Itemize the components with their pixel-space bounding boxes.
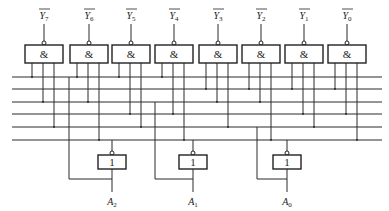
and-gate-y5: Y5&: [112, 9, 150, 63]
input-label: Y7: [39, 10, 49, 23]
or-gate-a0: 1A0: [257, 127, 301, 209]
and-gate-y1: Y1&: [285, 9, 323, 63]
and-gate-y7: Y7&: [25, 9, 63, 63]
gate-symbol: &: [170, 48, 179, 60]
gate-symbol: &: [300, 48, 309, 60]
output-label: A0: [281, 196, 292, 209]
gate-symbol: &: [343, 48, 352, 60]
gate-symbol: &: [127, 48, 136, 60]
bus-lines: [12, 77, 382, 140]
and-gate-y6: Y6&: [70, 9, 108, 63]
and-gate-y0: Y0&: [328, 9, 366, 63]
and-gate-y4: Y4&: [155, 9, 193, 63]
gate-symbol: &: [257, 48, 266, 60]
nand-gate-row: Y7&Y6&Y5&Y4&Y3&Y2&Y1&Y0&: [25, 9, 366, 63]
or-gate-row: 1A21A11A0: [69, 77, 301, 209]
gate-symbol: &: [40, 48, 49, 60]
encoder-logic-diagram: Y7&Y6&Y5&Y4&Y3&Y2&Y1&Y0& 1A21A11A0: [0, 0, 389, 211]
gate-symbol: 1: [190, 156, 196, 168]
or-gate-a1: 1A1: [155, 102, 207, 209]
input-label: Y3: [213, 10, 223, 23]
gate-symbol: 1: [284, 156, 290, 168]
output-label: A2: [106, 196, 117, 209]
output-label: A1: [187, 196, 198, 209]
or-gate-a2: 1A2: [69, 77, 126, 209]
input-label: Y1: [299, 10, 309, 23]
and-gate-y3: Y3&: [199, 9, 237, 63]
gate-symbol: &: [214, 48, 223, 60]
input-label: Y2: [256, 10, 266, 23]
input-label: Y6: [84, 10, 94, 23]
and-gate-y2: Y2&: [242, 9, 280, 63]
gate-symbol: &: [85, 48, 94, 60]
input-label: Y0: [342, 10, 352, 23]
input-label: Y4: [169, 10, 179, 23]
gate-symbol: 1: [109, 156, 115, 168]
input-label: Y5: [126, 10, 136, 23]
feed-wire: [257, 127, 287, 179]
